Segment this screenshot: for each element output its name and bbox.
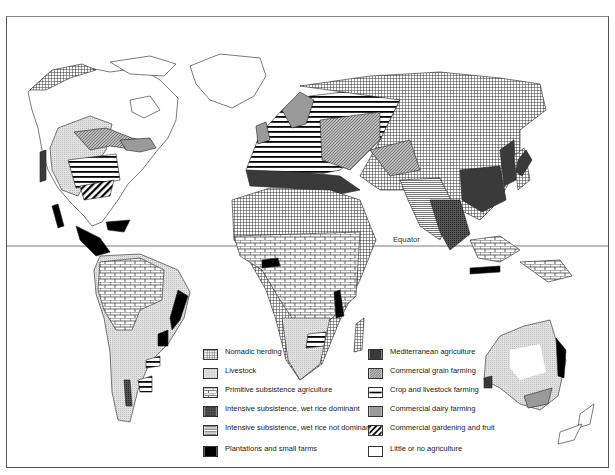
legend-item-plantations: Plantations and small farms [203, 445, 375, 461]
little-no-agriculture-swatch-icon [368, 446, 383, 457]
mediterranean-swatch-icon [368, 349, 383, 360]
legend-item-livestock: Livestock [203, 367, 375, 383]
legend-item-little-no-agriculture: Little or no agriculture [368, 445, 540, 461]
legend-item-intensive-wet-rice: Intensive subsistence, wet rice dominant [203, 405, 375, 421]
primitive-subsistence-swatch-icon [203, 387, 218, 398]
commercial-grain-swatch-icon [368, 368, 383, 379]
legend-label: Commercial gardening and fruit [390, 424, 540, 432]
legend-item-gardening-fruit: Commercial gardening and fruit [368, 424, 540, 440]
south-america [94, 254, 190, 422]
legend-item-primitive-subsistence: Primitive subsistence agriculture [203, 386, 375, 402]
intensive-not-wet-rice-swatch-icon [203, 425, 218, 436]
north-america [28, 64, 178, 256]
legend-item-commercial-dairy: Commercial dairy farming [368, 405, 540, 421]
equator-label: Equator [393, 235, 420, 244]
gardening-fruit-swatch-icon [368, 425, 383, 436]
legend-item-mediterranean: Mediterranean agriculture [368, 348, 540, 364]
legend-label: Nomadic herding [225, 348, 375, 356]
legend-label: Commercial dairy farming [390, 405, 540, 413]
legend-label: Intensive subsistence, wet rice not domi… [225, 424, 375, 432]
intensive-wet-rice-swatch-icon [203, 406, 218, 417]
legend-label: Intensive subsistence, wet rice dominant [225, 405, 375, 413]
crop-livestock-swatch-icon [368, 387, 383, 398]
nomadic-herding-swatch-icon [203, 349, 218, 360]
legend-item-intensive-not-wet-rice: Intensive subsistence, wet rice not domi… [203, 424, 375, 440]
legend-item-nomadic-herding: Nomadic herding [203, 348, 375, 364]
legend-item-crop-livestock: Crop and livestock farming [368, 386, 540, 402]
commercial-dairy-swatch-icon [368, 406, 383, 417]
legend-label: Commercial grain farming [390, 367, 540, 375]
legend-label: Plantations and small farms [225, 445, 375, 453]
legend-label: Crop and livestock farming [390, 386, 540, 394]
plantations-swatch-icon [203, 446, 218, 457]
livestock-swatch-icon [203, 368, 218, 379]
legend-label: Little or no agriculture [390, 445, 540, 453]
legend-item-commercial-grain: Commercial grain farming [368, 367, 540, 383]
map-legend: Nomadic herding Livestock Primitive subs… [203, 348, 603, 468]
legend-label: Mediterranean agriculture [390, 348, 540, 356]
legend-label: Livestock [225, 367, 375, 375]
legend-label: Primitive subsistence agriculture [225, 386, 375, 394]
